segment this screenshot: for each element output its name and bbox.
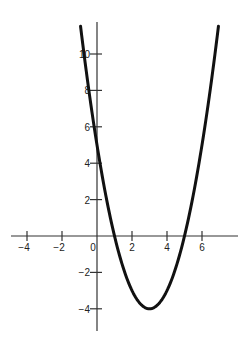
y-tick-label: 2	[84, 195, 90, 206]
x-tick-label: 0	[90, 242, 96, 253]
x-tick-label: 4	[164, 242, 170, 253]
x-tick-label: −2	[53, 242, 65, 253]
y-tick-label: −2	[79, 267, 91, 278]
axes	[11, 22, 238, 331]
parabola-chart: −4−20246−4−2246810	[0, 0, 251, 343]
parabola-curve	[81, 26, 219, 309]
x-tick-label: 6	[199, 242, 205, 253]
y-tick-label: 6	[84, 122, 90, 133]
y-tick-label: 4	[84, 158, 90, 169]
x-tick-label: −4	[18, 242, 30, 253]
tick-labels: −4−20246−4−2246810	[18, 49, 205, 315]
x-tick-label: 2	[129, 242, 135, 253]
y-tick-label: −4	[79, 304, 91, 315]
